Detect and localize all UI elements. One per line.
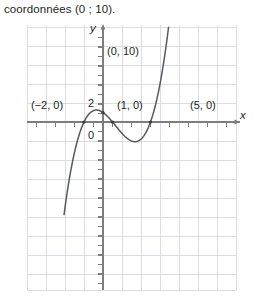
x-axis-label: x [240,110,246,121]
y-axis [98,24,105,290]
point-root-right [149,120,152,123]
point-root-mid [111,120,114,123]
grid-lines [27,25,236,290]
label-root-mid: (1, 0) [117,100,143,111]
tick-label-two: 2 [88,98,94,109]
point-root-left [82,120,85,123]
caption-text: coordonnées (0 ; 10). [4,2,115,16]
tick-label-zero: 0 [88,130,94,141]
x-axis [27,120,240,127]
point-y-intercept [101,111,104,114]
label-root-left: (−2, 0) [31,100,63,111]
y-axis-label: y [90,23,96,34]
label-root-right: (5, 0) [190,100,216,111]
cubic-graph-figure: y x 2 0 (−2, 0) (0, 10) (1, 0) (5, 0) [0,18,259,300]
graph-canvas [0,18,259,300]
label-y-intercept: (0, 10) [107,46,139,57]
